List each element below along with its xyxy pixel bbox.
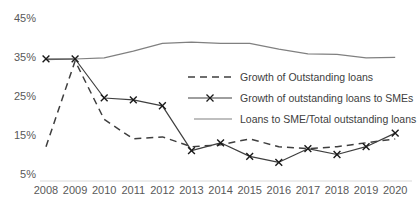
legend-item-growth-outstanding-loans: Growth of Outstanding loans bbox=[186, 66, 416, 87]
dashed-line-key bbox=[186, 70, 234, 84]
data-point-marker bbox=[392, 130, 399, 137]
data-point-marker bbox=[188, 147, 195, 154]
legend-label: Growth of Outstanding loans bbox=[234, 71, 373, 83]
legend-label: Loans to SME/Total outstanding loans bbox=[234, 113, 416, 125]
legend-item-loans-sme-total: Loans to SME/Total outstanding loans bbox=[186, 108, 416, 129]
x-axis-tick-label: 2020 bbox=[378, 184, 412, 196]
data-point-marker bbox=[363, 143, 370, 150]
chart-legend: Growth of Outstanding loans Growth of ou… bbox=[186, 66, 416, 129]
solid-line-x-marker-key bbox=[186, 91, 234, 105]
legend-item-growth-outstanding-loans-smes: Growth of outstanding loans to SMEs bbox=[186, 87, 416, 108]
gray-line-key bbox=[186, 112, 234, 126]
legend-label: Growth of outstanding loans to SMEs bbox=[234, 92, 413, 104]
chart-container: 45% 35% 25% 15% 5% 200820092010201120122… bbox=[0, 0, 418, 212]
series-line bbox=[46, 42, 395, 60]
